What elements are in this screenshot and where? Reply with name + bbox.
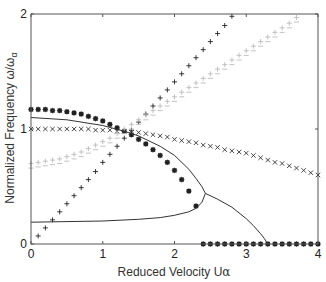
- faint-plus-lower: [29, 22, 299, 168]
- plot-series: [28, 14, 321, 247]
- x-tick-label: 1: [99, 247, 106, 261]
- y-tick-label: 1: [20, 122, 27, 136]
- x-axis-label: Reduced Velocity Uα: [118, 265, 231, 279]
- tick-labels: 01234012: [20, 7, 321, 261]
- y-axis-label: Normalized Frequency ω/ωα: [3, 52, 19, 203]
- x-tick-label: 0: [28, 247, 35, 261]
- y-tick-label: 2: [20, 7, 27, 21]
- faint-plus-upper: [29, 15, 299, 166]
- asterisk-markers: [28, 107, 199, 209]
- y-tick-label: 0: [20, 237, 27, 251]
- solid-curve-descending: [205, 193, 267, 244]
- plus-markers: [36, 14, 235, 239]
- chart: 01234012 Reduced Velocity Uα Normalized …: [0, 0, 326, 282]
- solid-curve-lower: [31, 193, 205, 222]
- x-tick-label: 2: [171, 247, 178, 261]
- x-tick-label: 4: [315, 247, 322, 261]
- x-tick-label: 3: [243, 247, 250, 261]
